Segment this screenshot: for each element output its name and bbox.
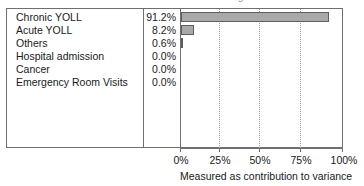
category-label-column: Chronic YOLL Acute YOLL Others Hospital … <box>16 11 141 89</box>
contribution-to-variance-chart: due to Human Health damages Chronic YOLL… <box>0 0 364 186</box>
value-label-column: 91.2% 8.2% 0.6% 0.0% 0.0% 0.0% <box>143 11 178 89</box>
value-label: 0.0% <box>143 63 178 76</box>
value-label: 0.0% <box>143 50 178 63</box>
x-tick-label: 25% <box>209 154 230 166</box>
category-label: Others <box>16 37 141 50</box>
x-tick-label: 75% <box>290 154 311 166</box>
bar-row <box>181 63 343 76</box>
bar <box>181 25 194 35</box>
x-tick-mark <box>219 148 220 152</box>
bar-row <box>181 76 343 89</box>
bar <box>181 12 329 22</box>
bar <box>181 38 183 48</box>
value-label: 0.6% <box>143 37 178 50</box>
x-tick-label: 50% <box>249 154 270 166</box>
category-label: Chronic YOLL <box>16 11 141 24</box>
bar-row <box>181 50 343 63</box>
bar-row <box>181 24 343 37</box>
x-axis-caption: Measured as contribution to variance <box>180 170 343 182</box>
bar-series <box>181 11 343 91</box>
category-label: Acute YOLL <box>16 24 141 37</box>
category-label: Cancer <box>16 63 141 76</box>
bar-row <box>181 11 343 24</box>
x-axis-line <box>180 148 343 149</box>
bar-row <box>181 37 343 50</box>
chart-title: due to Human Health damages <box>0 0 364 2</box>
x-tick-mark <box>259 148 260 152</box>
value-label: 0.0% <box>143 76 178 89</box>
x-tick-label: 100% <box>331 154 358 166</box>
category-label: Hospital admission <box>16 50 141 63</box>
x-tick-mark <box>342 148 343 152</box>
x-tick-mark <box>180 148 181 152</box>
value-label: 91.2% <box>143 11 178 24</box>
x-tick-mark <box>300 148 301 152</box>
x-tick-label: 0% <box>173 154 188 166</box>
category-label: Emergency Room Visits <box>16 76 141 89</box>
value-label: 8.2% <box>143 24 178 37</box>
